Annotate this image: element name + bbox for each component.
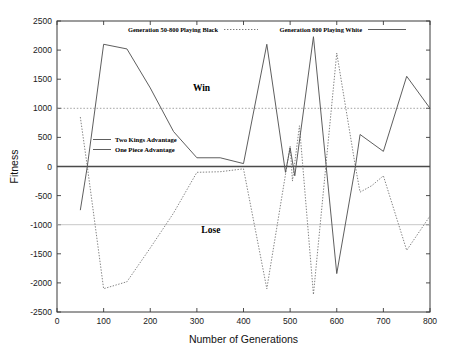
y-tick-label: -2500 — [30, 307, 52, 317]
fitness-vs-generations-chart: -2500-2000-1500-1000-5000500100015002000… — [0, 0, 454, 358]
x-tick-label: 0 — [55, 316, 60, 326]
series-line-1 — [80, 53, 430, 295]
x-tick-label: 400 — [236, 316, 250, 326]
y-tick-label: -1000 — [30, 220, 52, 230]
annotation-lose: Lose — [201, 225, 220, 235]
x-tick-label: 300 — [190, 316, 204, 326]
y-tick-label: 2500 — [33, 16, 52, 26]
y-tick-label: 0 — [47, 162, 52, 172]
x-tick-label: 600 — [330, 316, 344, 326]
chart-canvas: -2500-2000-1500-1000-5000500100015002000… — [0, 0, 454, 358]
y-tick-label: 1500 — [33, 74, 52, 84]
x-tick-label: 700 — [376, 316, 390, 326]
y-axis-title: Fitness — [8, 150, 20, 184]
x-tick-label: 200 — [143, 316, 157, 326]
legend-top-label-2: Generation 800 Playing White — [280, 26, 363, 33]
y-tick-label: 1000 — [33, 103, 52, 113]
x-tick-label: 500 — [283, 316, 297, 326]
y-tick-label: -1500 — [30, 249, 52, 259]
y-tick-label: -500 — [35, 191, 52, 201]
y-tick-label: 500 — [38, 132, 52, 142]
legend-top-label-1: Generation 50-800 Playing Black — [128, 26, 218, 33]
y-tick-label: 2000 — [33, 45, 52, 55]
y-tick-label: -2000 — [30, 278, 52, 288]
x-tick-label: 800 — [423, 316, 437, 326]
legend-inner-label-2: One Piece Advantage — [115, 146, 175, 153]
series-line-2 — [80, 37, 430, 274]
legend-inner-label-1: Two Kings Advantage — [115, 136, 177, 143]
x-axis-title: Number of Generations — [189, 333, 298, 345]
x-tick-label: 100 — [97, 316, 111, 326]
annotation-win: Win — [193, 83, 211, 93]
